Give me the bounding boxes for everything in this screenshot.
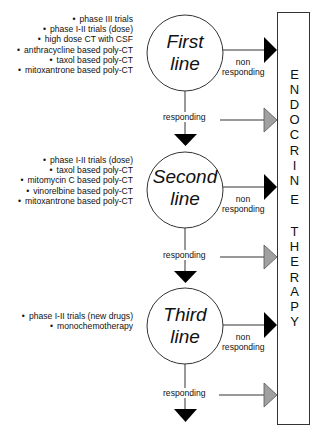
non-responding-label: non responding <box>222 57 264 77</box>
endocrine-therapy-box: E N D O C R I N E T H E R A P Y <box>277 12 310 425</box>
down-arrow-icon <box>174 134 197 146</box>
right-arrow-gray-icon <box>264 383 277 407</box>
node-title-line: Second <box>147 166 223 188</box>
right-arrow-black-icon <box>264 312 277 338</box>
letter: Y <box>278 315 311 328</box>
third-line-label: Third line <box>147 304 223 348</box>
letter: I <box>278 159 311 172</box>
label-line: responding <box>222 342 264 352</box>
first-line-label: First line <box>147 31 223 75</box>
down-arrow-icon <box>174 409 197 422</box>
down-arrow-icon <box>174 271 197 283</box>
node-title-line: Third <box>147 304 223 326</box>
node-title-line: line <box>147 326 223 348</box>
label-line: responding <box>222 67 264 77</box>
right-arrow-black-icon <box>264 37 277 63</box>
letter: E <box>278 193 311 206</box>
letter: T <box>278 225 311 238</box>
right-arrow-gray-icon <box>264 245 277 269</box>
node-title-line: line <box>147 188 223 210</box>
letter: A <box>278 285 311 298</box>
right-arrow-black-icon <box>264 174 277 200</box>
letter: E <box>278 255 311 268</box>
label-line: non <box>222 194 264 204</box>
letter: C <box>278 128 311 141</box>
letter: N <box>278 174 311 187</box>
node-title-line: First <box>147 31 223 53</box>
letter: E <box>278 68 311 81</box>
right-arrow-gray-icon <box>264 108 277 132</box>
responding-label: responding <box>162 112 207 122</box>
second-line-label: Second line <box>147 166 223 210</box>
responding-label: responding <box>162 250 207 260</box>
letter: D <box>278 98 311 111</box>
node-title-line: line <box>147 53 223 75</box>
letter: H <box>278 240 311 253</box>
responding-label: responding <box>162 388 207 398</box>
letter: N <box>278 83 311 96</box>
letter: R <box>278 144 311 157</box>
non-responding-label: non responding <box>222 194 264 214</box>
label-line: responding <box>222 204 264 214</box>
letter: R <box>278 271 311 284</box>
label-line: non <box>222 57 264 67</box>
non-responding-label: non responding <box>222 332 264 352</box>
label-line: non <box>222 332 264 342</box>
letter: P <box>278 300 311 313</box>
letter: O <box>278 113 311 126</box>
